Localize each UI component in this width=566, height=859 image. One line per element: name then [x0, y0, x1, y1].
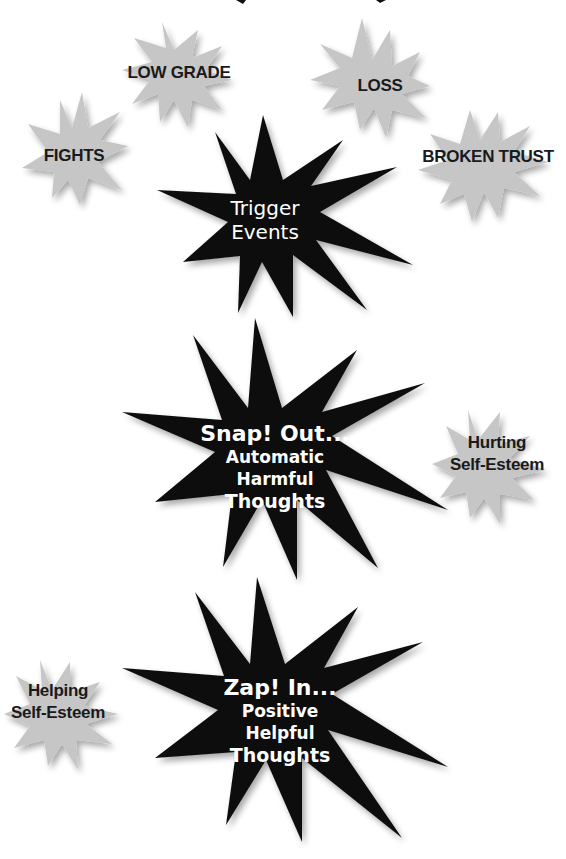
- zap-in-line2: Helpful: [210, 722, 350, 744]
- cutoff-fragment-right: [376, 0, 386, 3]
- zap-in-line3: Thoughts: [210, 744, 350, 766]
- snap-out-title: Snap! Out...: [200, 422, 350, 446]
- trigger-loss-label: LOSS: [350, 76, 410, 96]
- trigger-low-grade-label: LOW GRADE: [124, 63, 234, 83]
- trigger-events-line1: Trigger: [210, 196, 320, 220]
- trigger-events-line2: Events: [210, 220, 320, 244]
- helping-self-esteem-label: Helping Self-Esteem: [0, 680, 116, 724]
- snap-out-line2: Harmful: [200, 468, 350, 490]
- zap-in-line1: Positive: [210, 700, 350, 722]
- cutoff-fragment-left: [236, 0, 246, 4]
- trigger-fights-label: FIGHTS: [34, 146, 114, 166]
- hurting-line1: Hurting: [432, 432, 562, 454]
- trigger-events-label: Trigger Events: [210, 196, 320, 244]
- helping-line2: Self-Esteem: [0, 702, 116, 724]
- zap-in-label: Zap! In... Positive Helpful Thoughts: [210, 676, 350, 766]
- hurting-line2: Self-Esteem: [432, 454, 562, 476]
- snap-out-line1: Automatic: [200, 446, 350, 468]
- helping-line1: Helping: [0, 680, 116, 702]
- snap-out-label: Snap! Out... Automatic Harmful Thoughts: [200, 422, 350, 512]
- snap-out-line3: Thoughts: [200, 490, 350, 512]
- zap-in-title: Zap! In...: [210, 676, 350, 700]
- diagram-canvas: FIGHTS LOW GRADE LOSS BROKEN TRUST Hurti…: [0, 0, 566, 859]
- hurting-self-esteem-label: Hurting Self-Esteem: [432, 432, 562, 476]
- trigger-broken-trust-label: BROKEN TRUST: [412, 147, 564, 167]
